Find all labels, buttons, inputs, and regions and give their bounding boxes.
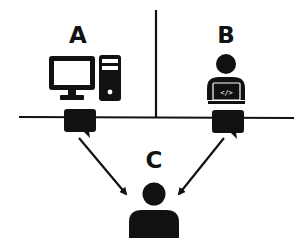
speech-bubble-icon (212, 110, 244, 139)
desktop-computer-icon (49, 55, 121, 101)
code-symbol-text: </> (220, 89, 233, 97)
node-label-a: A (63, 24, 93, 47)
developer-laptop-icon: </> (207, 54, 245, 104)
diagram-canvas: </> (0, 0, 308, 247)
speech-bubble-icon (64, 109, 96, 138)
arrow-a-to-c (79, 138, 126, 194)
node-label-b: B (211, 24, 241, 47)
arrow-b-to-c (179, 138, 224, 194)
node-label-c: C (139, 149, 169, 172)
person-icon (129, 183, 179, 239)
